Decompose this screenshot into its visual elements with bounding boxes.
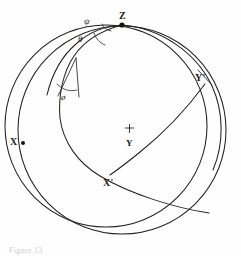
great-circle-arc-z-to-yprime xyxy=(122,25,221,170)
great-circle-arc-yprime-to-xprime xyxy=(110,84,205,175)
point-marker-x xyxy=(21,141,25,145)
angle-label-theta: θ xyxy=(78,35,82,44)
point-label-z: Z xyxy=(119,11,126,21)
point-label-y-center: Y xyxy=(126,139,133,148)
phi-angle-arc xyxy=(57,84,77,91)
figure-caption: Figure 13 xyxy=(9,246,43,255)
primitive-circle xyxy=(18,26,226,234)
point-label-x-prime: X' xyxy=(103,178,113,188)
angle-label-phi: ø xyxy=(61,93,66,102)
point-label-x: X xyxy=(10,137,17,147)
point-marker-z xyxy=(119,22,124,27)
figure-canvas: Z X Y' X' Y ψ θ ø Figure 13 xyxy=(0,0,241,256)
theta-angle-arc xyxy=(94,33,105,45)
secondary-circle xyxy=(5,25,207,227)
stereographic-projection-drawing xyxy=(0,0,241,256)
point-label-y-prime: Y' xyxy=(195,73,205,83)
angle-label-psi: ψ xyxy=(84,17,90,26)
lune-inner-arc xyxy=(47,25,122,95)
phi-wedge-right-edge xyxy=(76,58,79,97)
